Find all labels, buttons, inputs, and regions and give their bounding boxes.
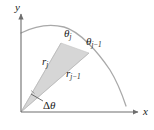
r-j-minus-1-subscript: j−1: [70, 73, 80, 81]
x-axis-label: x: [143, 106, 148, 117]
y-axis-label: y: [15, 2, 20, 13]
theta-j-label: θj: [64, 28, 71, 41]
figure-canvas: [0, 0, 154, 130]
r-j-label: rj: [42, 56, 48, 69]
theta-symbol: θ: [50, 99, 55, 111]
polar-sector-figure: y x θj θj−1 rj rj−1 Δθ: [0, 0, 154, 130]
theta-j-minus-1-label: θj−1: [86, 36, 102, 49]
r-j-subscript: j: [46, 61, 48, 69]
theta-j-subscript: j: [69, 33, 71, 41]
r-j-minus-1-label: rj−1: [66, 68, 80, 81]
theta-j-minus-1-subscript: j−1: [91, 41, 101, 49]
delta-theta-label: Δθ: [43, 100, 55, 111]
